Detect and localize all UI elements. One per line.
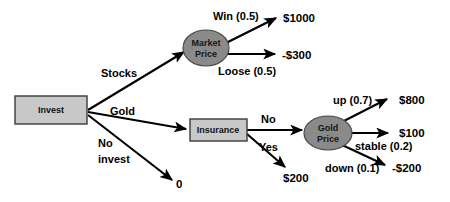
node-label-gold-price-line1: Gold xyxy=(318,123,339,133)
edge-label-stable: stable (0.2) xyxy=(355,140,413,152)
node-insurance[interactable]: Insurance xyxy=(190,119,247,141)
edge-label-stocks: Stocks xyxy=(101,67,137,79)
node-label-gold-price-line2: Price xyxy=(317,134,339,144)
edge-label-no-invest-line1: No xyxy=(98,137,113,149)
node-label-market-price-line1: Market xyxy=(191,38,220,48)
edge-label-gold: Gold xyxy=(110,105,135,117)
node-label-invest: Invest xyxy=(38,105,64,115)
payoff-gold-stable: $100 xyxy=(399,127,425,139)
node-market-price[interactable]: Market Price xyxy=(183,30,229,66)
payoff-no-invest: 0 xyxy=(176,178,182,190)
payoff-win: $1000 xyxy=(283,12,315,24)
edge-market-price-loose: Loose (0.5) -$300 xyxy=(218,49,311,77)
edge-line-stocks xyxy=(88,52,184,110)
edge-insurance-no: No xyxy=(247,113,302,130)
edge-label-up: up (0.7) xyxy=(333,94,372,106)
decision-tree-diagram: Stocks Gold No invest Win (0.5) $1000 Lo… xyxy=(0,0,450,202)
payoff-loose: -$300 xyxy=(282,49,311,61)
decision-tree-canvas: Stocks Gold No invest Win (0.5) $1000 Lo… xyxy=(0,0,450,202)
edge-invest-to-market-price: Stocks xyxy=(88,52,184,110)
edge-label-no: No xyxy=(261,113,276,125)
edge-label-loose: Loose (0.5) xyxy=(218,65,276,77)
node-label-market-price-line2: Price xyxy=(195,49,217,59)
payoff-insurance-yes: $200 xyxy=(283,172,309,184)
edge-gold-price-stable: stable (0.2) $100 xyxy=(350,127,425,152)
edge-label-win: Win (0.5) xyxy=(213,10,259,22)
node-label-insurance: Insurance xyxy=(197,125,240,135)
payoff-gold-down: -$200 xyxy=(392,162,421,174)
edge-gold-price-up: up (0.7) $800 xyxy=(333,94,425,123)
market-price-ellipse-shape xyxy=(183,30,229,66)
edge-insurance-yes: Yes $200 xyxy=(247,134,309,184)
payoff-gold-up: $800 xyxy=(399,94,425,106)
node-gold-price[interactable]: Gold Price xyxy=(304,116,352,150)
edge-label-no-invest-line2: invest xyxy=(98,153,130,165)
edge-label-yes: Yes xyxy=(259,141,278,153)
node-invest[interactable]: Invest xyxy=(15,96,87,124)
gold-price-ellipse-shape xyxy=(304,116,352,150)
edge-label-down: down (0.1) xyxy=(325,162,380,174)
edge-market-price-win: Win (0.5) $1000 xyxy=(213,10,315,44)
